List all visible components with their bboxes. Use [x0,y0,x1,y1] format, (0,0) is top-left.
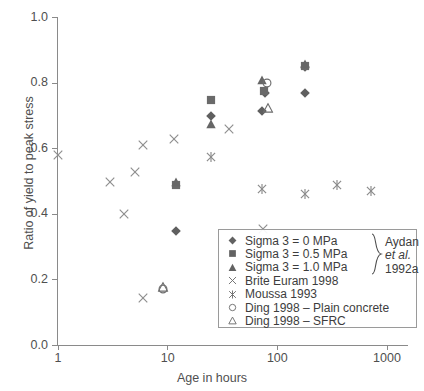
open-circle-icon [224,303,242,312]
legend-entry: Sigma 3 = 0 MPa [224,234,337,247]
legend-label: Moussa 1993 [245,287,317,301]
legend-label: Ding 1998 – SFRC [245,314,346,328]
cross-x-icon [224,276,242,285]
data-point [129,166,140,177]
legend-group-line: et al. [385,248,411,262]
filled-diamond-icon [224,236,242,245]
legend-brace-icon [371,233,383,275]
data-point [262,102,273,113]
data-point [206,119,217,130]
legend-label: Sigma 3 = 1.0 MPa [245,260,347,274]
data-point [105,176,116,187]
data-point [300,59,311,70]
data-point [256,183,267,194]
legend-label: Brite Euram 1998 [245,274,338,288]
data-point [206,151,217,162]
legend-entry: Sigma 3 = 1.0 MPa [224,261,347,274]
data-point [261,78,272,89]
asterisk-icon [224,290,242,299]
filled-triangle-icon [224,263,242,272]
chart-legend: Sigma 3 = 0 MPaSigma 3 = 0.5 MPaSigma 3 … [218,229,417,328]
data-point [331,179,342,190]
data-point [138,292,149,303]
chart-figure: 0.00.20.40.60.81.0 1101001000 Age in hou… [0,0,424,391]
data-point [171,176,182,187]
legend-label: Sigma 3 = 0 MPa [245,234,337,248]
data-point [366,185,377,196]
legend-entry: Ding 1998 – Plain concrete [224,301,389,314]
legend-entry: Sigma 3 = 0.5 MPa [224,247,347,260]
data-point [53,150,64,161]
legend-entry: Moussa 1993 [224,288,317,301]
legend-label: Sigma 3 = 0.5 MPa [245,247,347,261]
legend-group-line: 1992a [385,262,418,276]
data-point [157,282,168,293]
filled-square-icon [224,249,242,258]
data-point [300,188,311,199]
data-point [206,94,217,105]
legend-entry: Ding 1998 – SFRC [224,314,346,327]
data-point [223,124,234,135]
legend-label: Ding 1998 – Plain concrete [245,301,389,315]
data-point [171,225,182,236]
data-point [138,140,149,151]
plot-area [0,0,424,391]
data-point [300,87,311,98]
legend-group-line: Aydan [385,235,419,249]
data-point [169,133,180,144]
data-point [119,209,130,220]
open-triangle-icon [224,316,242,325]
legend-entry: Brite Euram 1998 [224,274,338,287]
